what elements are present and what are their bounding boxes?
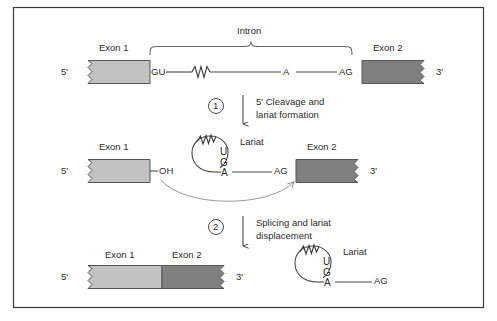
row2-exon2-box [296, 160, 358, 183]
step2-line1: Splicing and lariat [256, 218, 331, 228]
row3-acceptor-site-label: AG [374, 276, 388, 286]
step2-line2: displacement [256, 231, 312, 241]
row3-exon1-label: Exon 1 [105, 250, 135, 260]
row2-acceptor-site-label: AG [274, 166, 288, 176]
row1-exon1-label: Exon 1 [99, 43, 129, 53]
splicing-diagram: Intron Exon 1 Exon 2 5' 3' GU A AG 1 5' … [0, 0, 497, 321]
step2-number: 2 [213, 222, 218, 232]
row1-exon1-box [88, 61, 150, 84]
row2-exon1-box [88, 160, 150, 183]
row2-five-prime-label: 5' [61, 166, 68, 176]
row2-three-prime-label: 3' [370, 166, 377, 176]
row2-exon1-label: Exon 1 [99, 142, 129, 152]
row3-exon2-box [162, 266, 224, 289]
row3-five-prime-label: 5' [61, 272, 68, 282]
figure-border [14, 8, 484, 308]
row2-base-a: A [221, 168, 228, 178]
row3-exon1-box [88, 266, 162, 289]
row1-three-prime-label: 3' [436, 67, 443, 77]
row3-three-prime-label: 3' [236, 272, 243, 282]
row2-base-u: U [220, 147, 227, 157]
row1-acceptor-site-label: AG [339, 67, 353, 77]
step1-line1: 5' Cleavage and [256, 97, 324, 107]
step1-number: 1 [213, 101, 218, 111]
row3-lariat-label: Lariat [343, 247, 367, 257]
row3-base-u: U [323, 257, 330, 267]
row2-lariat-label: Lariat [240, 137, 264, 147]
diagram-canvas [0, 0, 497, 321]
row1-exon2-label: Exon 2 [373, 43, 403, 53]
row1-branch-point-label: A [283, 67, 289, 77]
row1-exon2-box [362, 61, 424, 84]
row3-exon2-label: Exon 2 [172, 250, 202, 260]
row2-hydroxyl-label: OH [159, 166, 173, 176]
row2-exon2-label: Exon 2 [307, 142, 337, 152]
row3-base-a: A [324, 278, 331, 288]
row1-donor-site-label: GU [151, 67, 165, 77]
intron-label: Intron [237, 26, 261, 36]
step1-line2: lariat formation [256, 110, 319, 120]
row1-five-prime-label: 5' [61, 67, 68, 77]
